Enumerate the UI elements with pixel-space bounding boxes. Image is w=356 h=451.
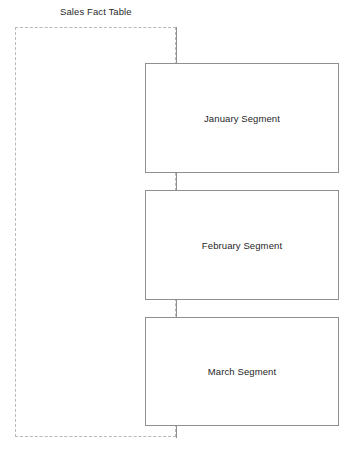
segment-box-march: March Segment: [145, 317, 339, 426]
connector-january-to-february: [176, 172, 177, 191]
segment-label-january: January Segment: [204, 113, 280, 124]
segment-box-february: February Segment: [145, 190, 339, 300]
segment-label-february: February Segment: [202, 240, 282, 251]
connector-march-to-boundary: [176, 425, 177, 438]
connector-february-to-march: [176, 299, 177, 318]
segment-label-march: March Segment: [208, 366, 276, 377]
segment-box-january: January Segment: [145, 63, 339, 173]
sales-fact-table-title: Sales Fact Table: [60, 6, 132, 18]
connector-boundary-to-january: [176, 27, 177, 64]
diagram-canvas: Sales Fact Table January Segment Februar…: [0, 0, 356, 451]
cropped-caption-strip: [0, 444, 356, 451]
